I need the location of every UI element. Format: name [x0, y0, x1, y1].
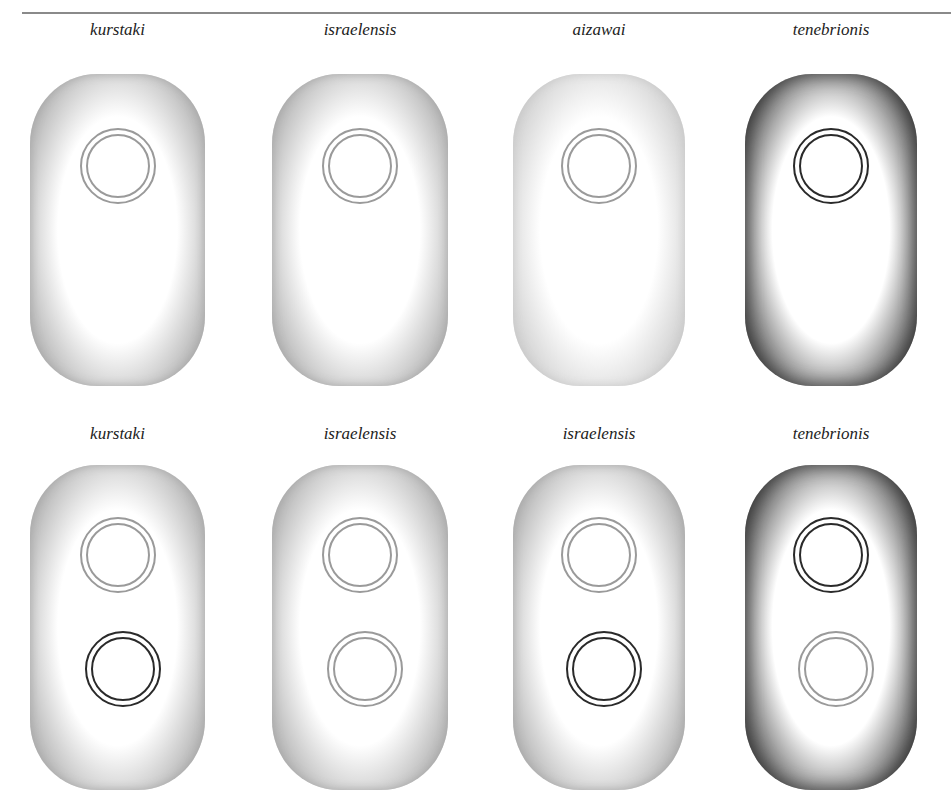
strain-label: kurstaki [20, 20, 215, 40]
crystal-ring-icon [322, 517, 398, 593]
crystal-ring-icon [793, 128, 869, 204]
cell-capsule [272, 465, 448, 790]
strain-label: israelensis [262, 424, 458, 444]
cell-capsule [745, 74, 917, 386]
crystal-ring-icon [80, 517, 156, 593]
crystal-ring-icon [561, 517, 637, 593]
crystal-ring-icon [327, 631, 403, 707]
cell-capsule [30, 465, 205, 790]
cell-capsule [513, 74, 685, 386]
strain-label: israelensis [503, 424, 695, 444]
crystal-ring-icon [798, 631, 874, 707]
cell-capsule [30, 74, 205, 386]
crystal-ring-icon [80, 128, 156, 204]
cell-capsule [272, 74, 448, 386]
crystal-ring-icon [322, 128, 398, 204]
top-rule [22, 12, 951, 14]
strain-label: tenebrionis [735, 424, 927, 444]
strain-label: israelensis [262, 20, 458, 40]
crystal-ring-icon [566, 631, 642, 707]
cell-capsule [745, 465, 917, 790]
crystal-ring-icon [85, 631, 161, 707]
crystal-ring-icon [793, 517, 869, 593]
strain-label: kurstaki [20, 424, 215, 444]
crystal-ring-icon [561, 128, 637, 204]
strain-label: tenebrionis [735, 20, 927, 40]
strain-label: aizawai [503, 20, 695, 40]
cell-capsule [513, 465, 685, 790]
